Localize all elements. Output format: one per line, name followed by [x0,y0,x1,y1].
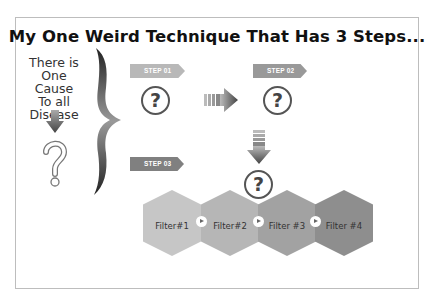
curly-brace-icon [88,48,124,196]
connector-arrow-icon [253,216,264,227]
connector-arrow-icon [310,216,321,227]
step-01-tag: STEP 01 [130,64,185,78]
page-title: My One Weird Technique That Has 3 Steps.… [0,27,434,46]
filter-label-3: Filter #3 [258,221,316,231]
filter-label-1: Filter#1 [143,221,201,231]
question-circle-icon: ? [263,86,292,115]
step-02-tag: STEP 02 [253,64,307,78]
left-line: One Cause [24,69,84,95]
arrow-down-icon [247,130,271,166]
arrow-down-icon [46,110,64,134]
arrow-right-icon [204,88,240,112]
question-circle-icon: ? [141,86,170,115]
filter-label-2: Filter#2 [201,221,259,231]
question-mark-icon [40,137,70,189]
connector-arrow-icon [196,216,207,227]
step-03-tag: STEP 03 [130,157,184,171]
question-circle-icon: ? [244,170,273,199]
filter-label-4: Filter #4 [315,221,373,231]
